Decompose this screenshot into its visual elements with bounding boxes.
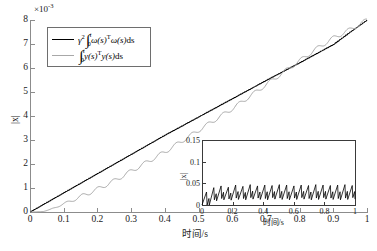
legend-line-swatch-1 — [52, 55, 74, 56]
inset-x-axis-label: 时间/s — [263, 216, 284, 227]
x-tick-mark — [367, 208, 368, 212]
inset-x-tick-label: 0.2 — [222, 207, 244, 217]
inset-y-tick-mark — [203, 183, 206, 184]
x-tick-mark — [64, 208, 65, 212]
y-tick-mark — [31, 68, 35, 69]
y-tick-mark — [31, 20, 35, 21]
legend-box: γ2∫t0ω(s)Tω(s)ds ∫t0y(s)Ty(s)ds — [47, 27, 151, 67]
y-tick-label: 8 — [17, 15, 28, 25]
inset-x-tick-mark — [233, 202, 234, 205]
inset-x-tick-mark — [324, 202, 325, 205]
legend-entry-gamma-omega: γ2∫t0ω(s)Tω(s)ds — [52, 31, 145, 47]
y-tick-label: 1 — [17, 183, 28, 193]
inset-y-axis-label: |x| — [179, 172, 188, 179]
inset-x-tick-mark — [294, 202, 295, 205]
y-axis-exponent-label: ×10-3 — [34, 2, 54, 14]
legend-line-swatch-0 — [52, 39, 74, 40]
y-axis-label: |x| — [10, 115, 20, 124]
legend-label-1: ∫t0y(s)Ty(s)ds — [78, 49, 123, 61]
x-tick-label: 0.4 — [153, 215, 177, 225]
x-tick-label: 0 — [18, 215, 42, 225]
y-tick-label: 5 — [17, 87, 28, 97]
inset-y-tick-mark — [203, 140, 206, 141]
inset-x-tick-label: 0.6 — [283, 207, 305, 217]
y-tick-mark — [31, 188, 35, 189]
legend-entry-y-integral: ∫t0y(s)Ty(s)ds — [52, 47, 145, 63]
y-tick-mark — [31, 140, 35, 141]
y-tick-mark — [31, 164, 35, 165]
y-tick-mark — [31, 44, 35, 45]
inset-y-tick-mark — [203, 162, 206, 163]
inset-y-tick-mark — [203, 205, 206, 206]
x-tick-mark — [30, 208, 31, 212]
x-tick-label: 0.2 — [85, 215, 109, 225]
inset-x-tick-mark — [263, 202, 264, 205]
inset-y-tick-label: 0.1 — [176, 158, 200, 168]
inset-y-tick-label: 0.15 — [176, 136, 200, 146]
x-tick-mark — [165, 208, 166, 212]
x-tick-label: 0.1 — [52, 215, 76, 225]
y-tick-label: 6 — [17, 63, 28, 73]
y-tick-label: 2 — [17, 159, 28, 169]
y-tick-mark — [31, 92, 35, 93]
inset-x-tick-mark — [355, 202, 356, 205]
inset-x-tick-label: 1 — [344, 207, 366, 217]
figure-root: ×10-3 012345678 00.10.20.30.40.50.60.70.… — [0, 0, 377, 251]
x-tick-label: 0.3 — [119, 215, 143, 225]
inset-x-tick-label: 0.8 — [313, 207, 335, 217]
legend-label-0: γ2∫t0ω(s)Tω(s)ds — [78, 33, 135, 45]
x-tick-mark — [131, 208, 132, 212]
y-tick-label: 7 — [17, 39, 28, 49]
y-tick-mark — [31, 116, 35, 117]
inset-y-tick-label: 0.05 — [176, 179, 200, 189]
inset-x-tick-label: 0 — [191, 207, 213, 217]
y-tick-mark — [31, 212, 35, 213]
x-tick-mark — [97, 208, 98, 212]
x-axis-label: 时间/s — [182, 226, 208, 240]
inset-x-tick-mark — [202, 202, 203, 205]
y-tick-label: 3 — [17, 135, 28, 145]
inset-plot-frame — [202, 140, 356, 206]
